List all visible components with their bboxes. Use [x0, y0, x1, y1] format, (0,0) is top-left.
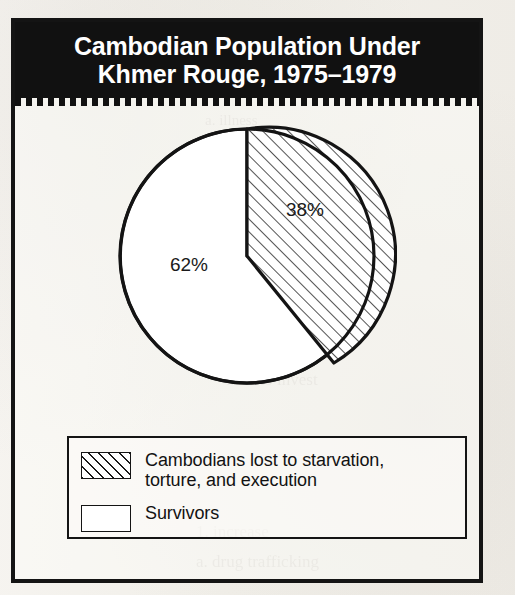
legend-swatch-plain-icon	[81, 505, 131, 532]
pie-label-lost: 38%	[286, 199, 324, 220]
title-banner: Cambodian Population Under Khmer Rouge, …	[15, 22, 479, 98]
pie-chart: 38% 62%	[97, 106, 397, 406]
pie-label-survivors: 62%	[170, 254, 208, 275]
legend-item-lost: Cambodians lost to starvation, torture, …	[69, 438, 465, 490]
figure-frame: Cambodian Population Under Khmer Rouge, …	[11, 18, 483, 583]
legend: Cambodians lost to starvation, torture, …	[67, 436, 467, 539]
pie-chart-area: 38% 62%	[15, 106, 479, 426]
banner-toothed-edge	[15, 98, 479, 106]
legend-label-lost: Cambodians lost to starvation, torture, …	[145, 450, 384, 490]
legend-swatch-hatch-icon	[81, 452, 131, 479]
legend-item-survivors: Survivors	[69, 490, 465, 532]
figure-title: Cambodian Population Under Khmer Rouge, …	[64, 32, 430, 89]
legend-label-survivors: Survivors	[145, 503, 219, 523]
